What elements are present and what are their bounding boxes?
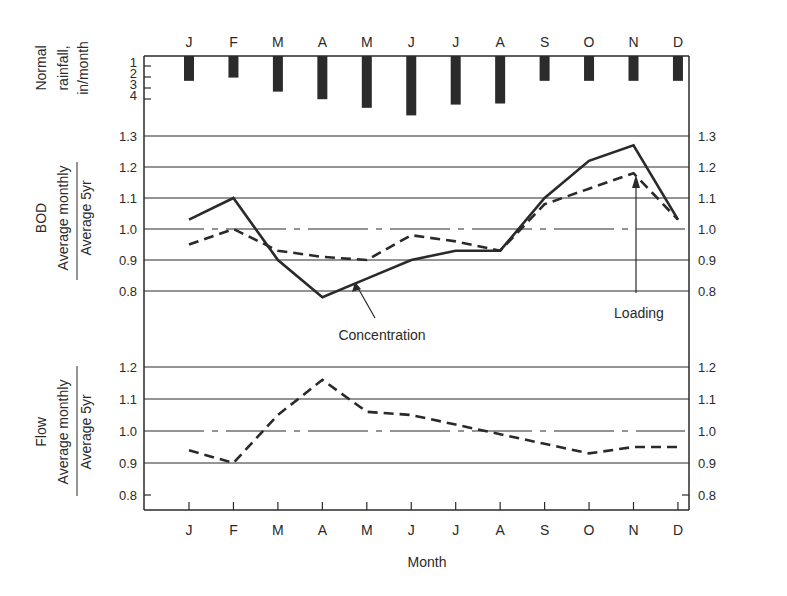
y-tick-label-right: 0.9 xyxy=(698,456,716,471)
top-month-label: M xyxy=(272,34,284,50)
top-month-label: S xyxy=(540,34,549,50)
top-month-label: A xyxy=(318,34,328,50)
rainfall-bars xyxy=(184,56,683,115)
bottom-month-label: A xyxy=(318,522,328,538)
top-month-label: J xyxy=(452,34,459,50)
bottom-month-label: A xyxy=(495,522,505,538)
flow-title: Flow xyxy=(33,416,49,446)
y-tick-label-right: 1.1 xyxy=(698,392,716,407)
y-tick-label-left: 1.3 xyxy=(119,129,137,144)
bottom-month-ticks xyxy=(189,502,678,510)
top-month-label: A xyxy=(495,34,505,50)
plot-frame xyxy=(144,56,689,510)
rainfall-bar xyxy=(629,56,639,81)
top-month-label: N xyxy=(628,34,638,50)
y-tick-label-left: 0.9 xyxy=(119,253,137,268)
rainfall-ticks: 1234 xyxy=(130,55,151,103)
y-tick-label-right: 1.0 xyxy=(698,424,716,439)
bottom-month-label: J xyxy=(452,522,459,538)
concentration-arrow-icon xyxy=(358,288,375,318)
flow-ratio-numerator: Average monthly xyxy=(55,380,71,485)
bod-ratio-numerator: Average monthly xyxy=(55,166,71,271)
rainfall-bar xyxy=(673,56,683,81)
y-tick-label-left: 0.8 xyxy=(119,488,137,503)
rain-label-line2: rainfall, xyxy=(55,45,71,90)
rainfall-bar xyxy=(451,56,461,105)
top-month-labels: JFMAMJJASOND xyxy=(186,34,684,50)
y-tick-label-right: 0.8 xyxy=(698,488,716,503)
y-tick-label-left: 0.8 xyxy=(119,284,137,299)
flow-axis-label: Flow Average monthly Average 5yr xyxy=(33,366,94,496)
rainfall-axis-label: Normal rainfall, in/month xyxy=(33,41,91,95)
y-tick-label-right: 0.8 xyxy=(698,284,716,299)
y-tick-label-left: 1.1 xyxy=(119,191,137,206)
top-month-label: O xyxy=(584,34,595,50)
concentration-label: Concentration xyxy=(338,327,425,343)
y-tick-label-left: 1.0 xyxy=(119,424,137,439)
top-month-label: D xyxy=(673,34,683,50)
bod-title: BOD xyxy=(33,203,49,233)
rainfall-bar xyxy=(273,56,283,92)
y-tick-label-left: 1.1 xyxy=(119,392,137,407)
bod-axis-label: BOD Average monthly Average 5yr xyxy=(33,162,94,280)
rainfall-bar xyxy=(184,56,194,81)
y-tick-label-right: 0.9 xyxy=(698,253,716,268)
bottom-month-label: S xyxy=(540,522,549,538)
y-tick-label-left: 1.2 xyxy=(119,160,137,175)
bottom-month-label: N xyxy=(628,522,638,538)
flow-gridlines xyxy=(144,367,689,495)
bottom-month-labels: JFMAMJJASOND xyxy=(186,522,684,538)
bod-loading-line xyxy=(189,173,678,260)
rainfall-bar xyxy=(228,56,238,78)
bottom-month-label: M xyxy=(361,522,373,538)
rainfall-bar xyxy=(362,56,372,108)
rain-label-line1: Normal xyxy=(33,45,49,90)
bod-tick-labels: 1.31.31.21.21.11.11.01.00.90.90.80.8 xyxy=(119,129,716,299)
y-tick-label-right: 1.3 xyxy=(698,129,716,144)
top-month-label: J xyxy=(186,34,193,50)
x-axis-title: Month xyxy=(408,554,447,570)
loading-arrowhead-icon xyxy=(632,175,640,188)
top-month-label: J xyxy=(408,34,415,50)
rainfall-bar xyxy=(540,56,550,81)
bod-ratio-denominator: Average 5yr xyxy=(78,180,94,256)
rain-label-line3: in/month xyxy=(75,41,91,95)
bottom-month-label: M xyxy=(272,522,284,538)
flow-ratio-denominator: Average 5yr xyxy=(78,394,94,470)
rain-tick-label: 4 xyxy=(130,88,137,103)
rainfall-bar xyxy=(406,56,416,115)
bod-concentration-line xyxy=(189,145,678,297)
flow-line xyxy=(189,380,678,463)
y-tick-label-left: 0.9 xyxy=(119,456,137,471)
rainfall-bar xyxy=(495,56,505,104)
y-tick-label-right: 1.2 xyxy=(698,160,716,175)
bottom-month-label: D xyxy=(673,522,683,538)
top-month-label: F xyxy=(229,34,238,50)
y-tick-label-left: 1.2 xyxy=(119,360,137,375)
top-month-label: M xyxy=(361,34,373,50)
bottom-month-label: J xyxy=(186,522,193,538)
y-tick-label-right: 1.0 xyxy=(698,222,716,237)
bottom-month-label: O xyxy=(584,522,595,538)
rainfall-bar xyxy=(584,56,594,81)
y-tick-label-right: 1.1 xyxy=(698,191,716,206)
y-tick-label-right: 1.2 xyxy=(698,360,716,375)
chart: JFMAMJJASOND Normal rainfall, in/month 1… xyxy=(0,0,787,596)
loading-label: Loading xyxy=(614,305,664,321)
bod-gridlines xyxy=(144,136,689,291)
bottom-month-label: J xyxy=(408,522,415,538)
rainfall-bar xyxy=(317,56,327,99)
y-tick-label-left: 1.0 xyxy=(119,222,137,237)
bottom-month-label: F xyxy=(229,522,238,538)
